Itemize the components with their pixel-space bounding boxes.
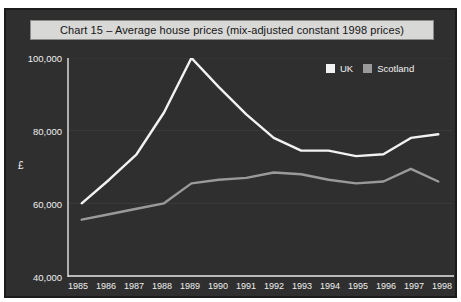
x-tick-1990: 1990 (204, 281, 232, 297)
y-axis-title: £ (18, 160, 24, 171)
gridlines (68, 58, 452, 276)
x-tick-1997: 1997 (400, 281, 428, 297)
x-axis-labels: 1985198619871988198919901991199219931994… (64, 281, 456, 297)
y-axis-labels: 100,000 80,000 60,000 40,000 (6, 10, 62, 298)
y-tick-100000: 100,000 (28, 53, 62, 64)
chart-page: Chart 15 – Average house prices (mix-adj… (0, 0, 461, 302)
page-title: Chart 15 – Average house prices (mix-adj… (60, 24, 404, 36)
chart-panel: Chart 15 – Average house prices (mix-adj… (4, 8, 457, 298)
series-line-scotland (82, 169, 439, 220)
x-tick-1991: 1991 (232, 281, 260, 297)
y-tick-80000: 80,000 (33, 126, 62, 137)
x-tick-1996: 1996 (372, 281, 400, 297)
x-tick-1985: 1985 (64, 281, 92, 297)
data-series (82, 58, 439, 220)
page-top-artifact (198, 0, 222, 8)
x-tick-1998: 1998 (428, 281, 456, 297)
y-tick-40000: 40,000 (33, 272, 62, 283)
x-tick-1993: 1993 (288, 281, 316, 297)
chart-svg (64, 58, 454, 277)
chart-title-bar: Chart 15 – Average house prices (mix-adj… (30, 20, 434, 40)
x-tick-1994: 1994 (316, 281, 344, 297)
x-tick-1995: 1995 (344, 281, 372, 297)
x-tick-1986: 1986 (92, 281, 120, 297)
page-top-margin (0, 0, 461, 8)
x-tick-1992: 1992 (260, 281, 288, 297)
x-tick-1987: 1987 (120, 281, 148, 297)
y-tick-60000: 60,000 (33, 199, 62, 210)
plot-area (64, 58, 454, 277)
x-tick-1988: 1988 (148, 281, 176, 297)
axis-lines (68, 58, 454, 277)
x-tick-1989: 1989 (176, 281, 204, 297)
